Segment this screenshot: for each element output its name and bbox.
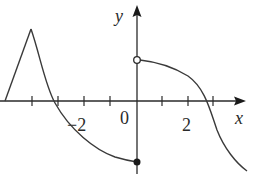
curve-piece-3 bbox=[140, 60, 247, 171]
open-circle-marker bbox=[134, 57, 141, 64]
function-curve bbox=[5, 29, 247, 171]
y-axis-label: y bbox=[113, 6, 123, 26]
tick-label-0: 0 bbox=[120, 108, 129, 128]
x-axis-label: x bbox=[234, 108, 243, 128]
graph: −2 0 2 y x bbox=[0, 0, 257, 174]
closed-dot-marker bbox=[134, 159, 141, 166]
curve-piece-2 bbox=[31, 29, 137, 162]
tick-label-2: 2 bbox=[182, 115, 191, 135]
curve-piece-1 bbox=[5, 29, 31, 101]
